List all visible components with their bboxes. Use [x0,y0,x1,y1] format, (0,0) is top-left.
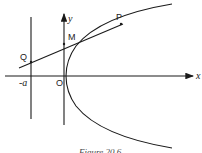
point-p-mark [120,23,122,25]
label-p: P [116,12,122,22]
tangent-line [19,24,123,68]
label-x-axis: x [195,70,201,81]
label-minus-a: -a [19,77,27,88]
label-origin: O [56,78,63,88]
label-y-axis: y [67,13,73,24]
parabola-diagram: P M Q O -a y x Figure 20.6 [0,0,202,153]
point-q-mark [30,61,32,63]
point-m-mark [63,43,65,45]
label-q: Q [20,52,27,62]
label-m: M [68,32,76,42]
figure-caption: Figure 20.6 [78,147,122,153]
